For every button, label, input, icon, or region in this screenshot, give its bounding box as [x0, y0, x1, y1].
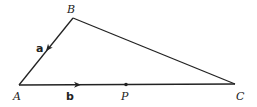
edge-bc	[73, 18, 235, 84]
triangle-diagram: B A P C a b	[0, 0, 257, 107]
label-point-b: B	[66, 3, 75, 16]
label-point-c: C	[236, 90, 245, 103]
label-point-p: P	[120, 90, 129, 103]
label-point-a: A	[12, 90, 21, 103]
label-vector-b: b	[66, 90, 74, 103]
point-p-dot	[124, 83, 128, 87]
label-vector-a: a	[36, 42, 43, 55]
edge-ab	[19, 18, 73, 85]
